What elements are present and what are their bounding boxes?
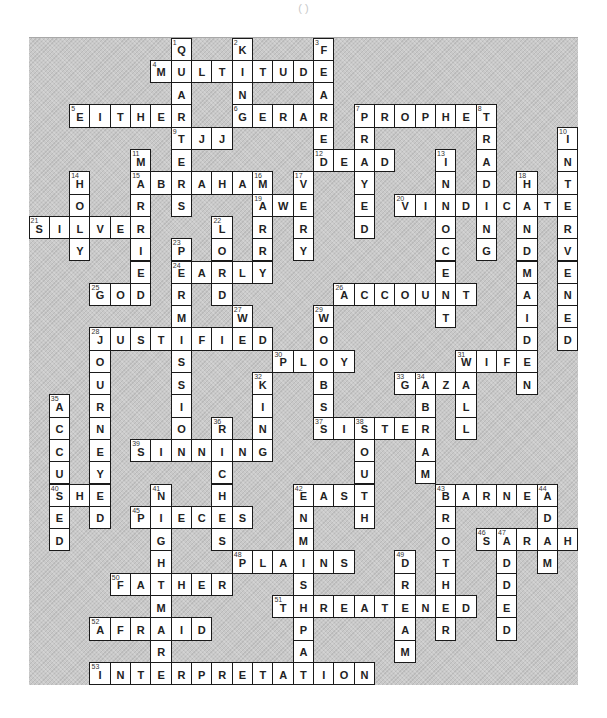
crossword-cell[interactable]: F xyxy=(191,327,212,350)
crossword-cell[interactable]: S xyxy=(333,484,354,507)
crossword-cell[interactable]: E xyxy=(455,104,476,127)
crossword-cell[interactable]: N xyxy=(293,506,314,529)
crossword-cell[interactable]: D xyxy=(49,528,70,551)
crossword-cell[interactable]: O xyxy=(211,238,232,261)
crossword-cell[interactable]: O xyxy=(110,283,131,306)
crossword-cell[interactable]: 51T xyxy=(272,595,293,618)
crossword-cell[interactable]: Y xyxy=(252,261,273,284)
crossword-cell[interactable]: O xyxy=(69,194,90,217)
crossword-cell[interactable]: P xyxy=(415,104,436,127)
crossword-cell[interactable]: R xyxy=(374,104,395,127)
crossword-cell[interactable]: U xyxy=(272,60,293,83)
crossword-cell[interactable]: G xyxy=(476,238,497,261)
crossword-cell[interactable]: O xyxy=(313,350,334,373)
crossword-cell[interactable]: N xyxy=(435,171,456,194)
crossword-cell[interactable]: H xyxy=(211,171,232,194)
crossword-cell[interactable]: L xyxy=(232,261,253,284)
crossword-cell[interactable]: I xyxy=(49,216,70,239)
crossword-cell[interactable]: I xyxy=(171,327,192,350)
crossword-cell[interactable]: D xyxy=(557,327,578,350)
crossword-cell[interactable]: R xyxy=(272,104,293,127)
crossword-cell[interactable]: T xyxy=(130,662,151,685)
crossword-cell[interactable]: 42E xyxy=(293,484,314,507)
crossword-cell[interactable]: 37S xyxy=(313,417,334,440)
crossword-cell[interactable]: 34A xyxy=(415,372,436,395)
crossword-cell[interactable]: 27W xyxy=(232,305,253,328)
crossword-cell[interactable]: 28J xyxy=(89,327,110,350)
crossword-cell[interactable]: A xyxy=(150,617,171,640)
crossword-cell[interactable]: R xyxy=(171,104,192,127)
crossword-cell[interactable]: I xyxy=(171,617,192,640)
crossword-cell[interactable]: A xyxy=(394,617,415,640)
crossword-cell[interactable]: S xyxy=(171,194,192,217)
crossword-cell[interactable]: D xyxy=(516,238,537,261)
crossword-cell[interactable]: E xyxy=(150,662,171,685)
crossword-cell[interactable]: J xyxy=(191,127,212,150)
crossword-cell[interactable]: P xyxy=(191,662,212,685)
crossword-cell[interactable]: O xyxy=(333,662,354,685)
crossword-cell[interactable]: D xyxy=(496,617,517,640)
crossword-cell[interactable]: N xyxy=(557,283,578,306)
crossword-cell[interactable]: E xyxy=(557,261,578,284)
crossword-cell[interactable]: S xyxy=(171,350,192,373)
crossword-cell[interactable]: E xyxy=(333,595,354,618)
crossword-cell[interactable]: E xyxy=(89,484,110,507)
crossword-cell[interactable]: L xyxy=(455,394,476,417)
crossword-cell[interactable]: R xyxy=(171,171,192,194)
crossword-cell[interactable]: O xyxy=(171,417,192,440)
crossword-cell[interactable]: V xyxy=(557,238,578,261)
crossword-cell[interactable]: E xyxy=(171,149,192,172)
crossword-cell[interactable]: R xyxy=(435,506,456,529)
crossword-cell[interactable]: T xyxy=(374,417,395,440)
crossword-cell[interactable]: N xyxy=(516,372,537,395)
crossword-cell[interactable]: S xyxy=(333,550,354,573)
crossword-cell[interactable]: A xyxy=(516,194,537,217)
crossword-cell[interactable]: E xyxy=(516,484,537,507)
crossword-cell[interactable]: R xyxy=(516,528,537,551)
crossword-cell[interactable]: R xyxy=(476,484,497,507)
crossword-cell[interactable]: C xyxy=(496,194,517,217)
crossword-cell[interactable]: C xyxy=(191,506,212,529)
crossword-cell[interactable]: 45P xyxy=(130,506,151,529)
crossword-cell[interactable]: R xyxy=(293,216,314,239)
crossword-cell[interactable]: 5E xyxy=(69,104,90,127)
crossword-cell[interactable]: N xyxy=(354,662,375,685)
crossword-cell[interactable]: O xyxy=(313,327,334,350)
crossword-cell[interactable]: N xyxy=(313,550,334,573)
crossword-cell[interactable]: D xyxy=(516,327,537,350)
crossword-cell[interactable]: I xyxy=(89,104,110,127)
crossword-cell[interactable]: N xyxy=(516,216,537,239)
crossword-cell[interactable]: 22L xyxy=(211,216,232,239)
crossword-cell[interactable]: R xyxy=(415,417,436,440)
crossword-cell[interactable]: 41N xyxy=(150,484,171,507)
crossword-cell[interactable]: D xyxy=(211,283,232,306)
crossword-cell[interactable]: C xyxy=(211,461,232,484)
crossword-cell[interactable]: C xyxy=(354,283,375,306)
crossword-cell[interactable]: D xyxy=(496,550,517,573)
crossword-cell[interactable]: L xyxy=(455,417,476,440)
crossword-cell[interactable]: E xyxy=(313,127,334,150)
crossword-cell[interactable]: 7P xyxy=(354,104,375,127)
crossword-cell[interactable]: N xyxy=(191,439,212,462)
crossword-cell[interactable]: 46S xyxy=(476,528,497,551)
crossword-cell[interactable]: D xyxy=(191,617,212,640)
crossword-cell[interactable]: 11M xyxy=(130,149,151,172)
crossword-cell[interactable]: 21S xyxy=(29,216,50,239)
crossword-cell[interactable]: E xyxy=(232,327,253,350)
crossword-cell[interactable]: T xyxy=(455,283,476,306)
crossword-cell[interactable]: Y xyxy=(293,238,314,261)
crossword-cell[interactable]: I xyxy=(516,305,537,328)
crossword-cell[interactable]: N xyxy=(557,149,578,172)
crossword-cell[interactable]: I xyxy=(476,350,497,373)
crossword-cell[interactable]: E xyxy=(252,104,273,127)
crossword-cell[interactable]: E xyxy=(232,662,253,685)
crossword-cell[interactable]: R xyxy=(171,662,192,685)
crossword-cell[interactable]: N xyxy=(435,283,456,306)
crossword-cell[interactable]: T xyxy=(110,104,131,127)
crossword-cell[interactable]: R xyxy=(211,662,232,685)
crossword-cell[interactable]: M xyxy=(150,595,171,618)
crossword-cell[interactable]: R xyxy=(89,394,110,417)
crossword-cell[interactable]: E xyxy=(394,417,415,440)
crossword-cell[interactable]: A xyxy=(455,372,476,395)
crossword-cell[interactable]: R xyxy=(130,216,151,239)
